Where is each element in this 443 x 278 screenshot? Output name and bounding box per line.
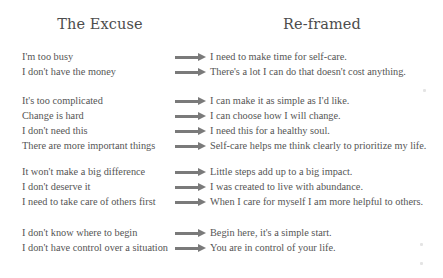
excuse-text: It won't make a big difference [22,165,145,179]
right-arrow-icon [175,53,206,61]
excuse-text: I don't deserve it [22,180,90,194]
excuse-text: There are more important things [22,139,155,153]
excuse-text: I need to take care of others first [22,195,156,209]
right-arrow-icon [175,198,206,206]
excuse-row: I don't deserve it I was created to live… [0,180,443,194]
excuse-row: It won't make a big difference Little st… [0,165,443,179]
scan-speck [420,243,423,246]
scan-speck [420,262,423,265]
right-arrow-icon [175,142,206,150]
scan-speck [423,89,426,92]
excuse-text: I don't have the money [22,65,116,79]
right-arrow-icon [175,112,206,120]
right-arrow-icon [175,168,206,176]
excuse-text: It's too complicated [22,94,103,108]
excuse-row: Change is hard I can choose how I will c… [0,109,443,123]
excuse-row: It's too complicated I can make it as si… [0,94,443,108]
excuse-row: I don't know where to begin Begin here, … [0,226,443,240]
excuse-text: I don't know where to begin [22,226,137,240]
reframe-text: Self-care helps me think clearly to prio… [210,139,426,153]
reframe-text: You are in control of your life. [210,241,336,255]
right-arrow-icon [175,229,206,237]
heading-re-framed: Re-framed [283,16,361,32]
excuse-row: I don't need this I need this for a heal… [0,124,443,138]
right-arrow-icon [175,183,206,191]
excuse-text: I don't have control over a situation [22,241,168,255]
right-arrow-icon [175,97,206,105]
reframe-text: Little steps add up to a big impact. [210,165,352,179]
reframe-text: I need this for a healthy soul. [210,124,330,138]
reframe-text: I was created to live with abundance. [210,180,363,194]
excuse-row: I'm too busy I need to make time for sel… [0,50,443,64]
excuse-row: I don't have the money There's a lot I c… [0,65,443,79]
right-arrow-icon [175,244,206,252]
reframe-text: I need to make time for self-care. [210,50,347,64]
excuse-row: I don't have control over a situation Yo… [0,241,443,255]
reframe-text: Begin here, it's a simple start. [210,226,332,240]
reframe-text: When I care for myself I am more helpful… [210,195,423,209]
excuse-text: I'm too busy [22,50,73,64]
excuse-row: There are more important things Self-car… [0,139,443,153]
reframe-text: There's a lot I can do that doesn't cost… [210,65,406,79]
reframe-text: I can make it as simple as I'd like. [210,94,349,108]
reframe-text: I can choose how I will change. [210,109,341,123]
heading-the-excuse: The Excuse [57,16,142,32]
excuse-row: I need to take care of others first When… [0,195,443,209]
excuse-text: Change is hard [22,109,84,123]
right-arrow-icon [175,127,206,135]
right-arrow-icon [175,68,206,76]
excuse-text: I don't need this [22,124,88,138]
